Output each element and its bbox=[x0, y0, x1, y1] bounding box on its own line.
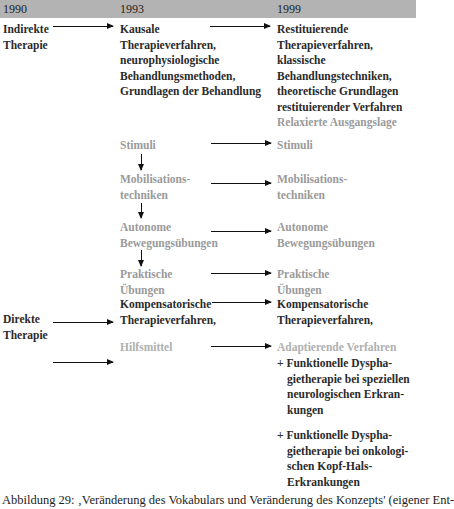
arrow-direct-secondary bbox=[53, 362, 113, 363]
functional-dysphagia-onco: + Funktionelle Dyspha- gietherapie bei o… bbox=[277, 428, 408, 490]
compensatory-therapy-1999: KompensatorischeTherapieverfahren, bbox=[277, 297, 373, 328]
arrow-indirect-to-causal bbox=[53, 26, 113, 27]
adaptive-methods-1999: Adaptierende Verfahren bbox=[277, 340, 396, 356]
compensatory-therapy-1993: KompensatorischeTherapieverfahren, bbox=[120, 297, 216, 328]
year-1990: 1990 bbox=[3, 2, 27, 17]
year-1993: 1993 bbox=[120, 2, 144, 17]
arrow-down-stimuli-to-mobilisation bbox=[141, 154, 142, 170]
mobilisation-1993: Mobilisations-techniken bbox=[120, 172, 190, 203]
indirect-therapy-label: IndirekteTherapie bbox=[3, 22, 49, 53]
aids-1993: Hilfsmittel bbox=[120, 340, 172, 356]
arrow-compensatory bbox=[212, 302, 271, 303]
functional-dysphagia-neuro: + Funktionelle Dyspha- gietherapie bei s… bbox=[277, 356, 410, 418]
mobilisation-1999: Mobilisations-techniken bbox=[277, 172, 347, 203]
direct-therapy-label: DirekteTherapie bbox=[3, 312, 48, 343]
causal-therapy-block: KausaleTherapieverfahren,neurophysiologi… bbox=[120, 22, 261, 100]
autonomous-exercises-1999: AutonomeBewegungsübungen bbox=[277, 220, 375, 251]
year-1999: 1999 bbox=[277, 2, 301, 17]
restitutive-therapy-block: RestituierendeTherapieverfahren,klassisc… bbox=[277, 22, 402, 115]
practical-exercises-1999: PraktischeÜbungen bbox=[277, 267, 329, 298]
arrow-down-autonomous-to-practical bbox=[141, 250, 142, 266]
stimuli-1999: Stimuli bbox=[277, 138, 313, 154]
arrow-causal-to-restitutive bbox=[210, 26, 270, 27]
arrow-down-mobilisation-to-autonomous bbox=[141, 203, 142, 218]
arrow-aids-to-adaptive bbox=[211, 346, 271, 347]
arrow-mobilisation bbox=[211, 183, 271, 184]
stimuli-1993: Stimuli bbox=[120, 138, 156, 154]
arrow-direct-to-compensatory bbox=[53, 322, 113, 323]
arrow-autonomous bbox=[211, 231, 271, 232]
year-header-bar: 1990 1993 1999 bbox=[0, 0, 416, 18]
figure-caption: Abbildung 29: ‚Veränderung des Vokabular… bbox=[2, 493, 454, 508]
autonomous-exercises-1993: AutonomeBewegungsübungen bbox=[120, 220, 218, 251]
arrow-stimuli bbox=[211, 143, 271, 144]
relaxed-position-1999: Relaxierte Ausgangslage bbox=[277, 115, 397, 131]
practical-exercises-1993: PraktischeÜbungen bbox=[120, 267, 172, 298]
arrow-practical bbox=[211, 273, 271, 274]
